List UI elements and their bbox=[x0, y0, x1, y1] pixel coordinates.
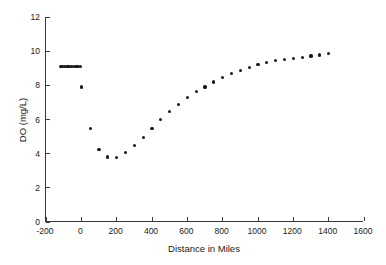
data-point bbox=[79, 65, 82, 68]
data-point bbox=[150, 127, 153, 130]
x-tick-label: 1200 bbox=[283, 226, 302, 236]
data-point bbox=[265, 61, 268, 64]
data-point bbox=[142, 136, 145, 139]
y-tick bbox=[46, 187, 50, 188]
data-point bbox=[97, 148, 100, 151]
x-tick-label: 200 bbox=[109, 226, 123, 236]
x-tick bbox=[364, 217, 365, 221]
data-point bbox=[283, 58, 286, 61]
y-tick bbox=[46, 17, 50, 18]
x-tick bbox=[222, 217, 223, 221]
data-point bbox=[248, 66, 251, 69]
x-tick bbox=[116, 217, 117, 221]
x-tick-label: 1000 bbox=[248, 226, 267, 236]
x-tick bbox=[258, 217, 259, 221]
chart-figure: DO (mg/L) -20002004006008001000120014001… bbox=[0, 0, 386, 265]
data-point bbox=[212, 80, 215, 83]
x-axis-label: Distance in Miles bbox=[45, 243, 363, 254]
data-point bbox=[80, 85, 83, 88]
data-point bbox=[133, 144, 136, 147]
data-point bbox=[177, 103, 180, 106]
x-tick-label: 800 bbox=[215, 226, 229, 236]
plot-area bbox=[45, 17, 363, 222]
y-tick-label: 12 bbox=[14, 12, 40, 22]
data-point bbox=[106, 155, 109, 158]
data-point bbox=[221, 76, 224, 79]
y-tick bbox=[46, 119, 50, 120]
x-tick bbox=[187, 217, 188, 221]
x-tick-label: 1600 bbox=[354, 226, 373, 236]
y-tick-label: 6 bbox=[14, 115, 40, 125]
data-point bbox=[318, 53, 321, 56]
y-tick bbox=[46, 153, 50, 154]
data-point bbox=[239, 69, 242, 72]
data-point bbox=[186, 96, 189, 99]
data-point bbox=[230, 72, 233, 75]
x-tick bbox=[81, 217, 82, 221]
x-tick bbox=[328, 217, 329, 221]
data-point bbox=[168, 110, 171, 113]
y-tick bbox=[46, 85, 50, 86]
data-point bbox=[195, 90, 198, 93]
x-tick bbox=[46, 217, 47, 221]
x-tick-label: 1400 bbox=[318, 226, 337, 236]
y-tick bbox=[46, 51, 50, 52]
y-tick-label: 4 bbox=[14, 149, 40, 159]
data-point bbox=[274, 59, 277, 62]
data-point bbox=[115, 156, 118, 159]
x-tick bbox=[152, 217, 153, 221]
x-tick-label: 400 bbox=[144, 226, 158, 236]
y-tick-label: 2 bbox=[14, 183, 40, 193]
y-tick-label: 10 bbox=[14, 46, 40, 56]
x-tick-label: -200 bbox=[36, 226, 53, 236]
data-point bbox=[309, 54, 312, 57]
y-tick-label: 8 bbox=[14, 80, 40, 90]
data-point bbox=[256, 63, 259, 66]
y-tick-label: 0 bbox=[14, 217, 40, 227]
x-tick-label: 600 bbox=[179, 226, 193, 236]
data-point bbox=[301, 56, 304, 59]
data-point bbox=[89, 127, 92, 130]
data-point bbox=[159, 118, 162, 121]
y-tick bbox=[46, 222, 50, 223]
data-point bbox=[327, 52, 330, 55]
data-point bbox=[292, 57, 295, 60]
data-point bbox=[124, 151, 127, 154]
x-tick bbox=[293, 217, 294, 221]
data-point bbox=[203, 85, 206, 88]
x-tick-label: 0 bbox=[78, 226, 83, 236]
